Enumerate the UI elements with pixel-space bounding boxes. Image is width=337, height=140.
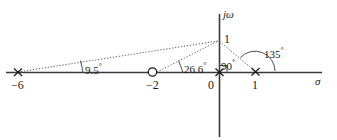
degree-sign-26-6: ° xyxy=(203,61,206,70)
real-axis-label: σ xyxy=(315,76,320,87)
zero-marker-minus2 xyxy=(148,68,156,76)
angle-value-9-5: 9.5 xyxy=(85,64,99,76)
imaginary-axis-label: jω xyxy=(223,9,234,20)
angle-value-26-6: 26.6 xyxy=(184,63,203,75)
tick-label-imag-one: 1 xyxy=(224,33,230,45)
angle-label-26-6: 26.6° xyxy=(184,62,206,75)
degree-sign-90: ° xyxy=(232,58,235,67)
angle-label-90: 90° xyxy=(221,59,235,72)
tick-label-minus-two: −2 xyxy=(146,79,159,91)
tick-label-minus-six: −6 xyxy=(11,79,24,91)
degree-sign-135: ° xyxy=(281,46,284,55)
angle-marker-9-5 xyxy=(81,61,83,73)
angle-label-135: 135° xyxy=(264,47,284,60)
tick-label-zero: 0 xyxy=(208,79,214,91)
angle-marker-26-6 xyxy=(179,61,184,73)
angle-label-9-5: 9.5° xyxy=(85,63,102,76)
pole-zero-diagram: jω σ 1 −6 −2 0 1 9.5° 26.6° 90° 135° xyxy=(0,0,337,140)
angle-value-135: 135 xyxy=(264,48,281,60)
diagram-canvas xyxy=(0,0,337,140)
degree-sign-9-5: ° xyxy=(99,62,102,71)
tick-label-one: 1 xyxy=(252,79,258,91)
angle-value-90: 90 xyxy=(221,60,232,72)
